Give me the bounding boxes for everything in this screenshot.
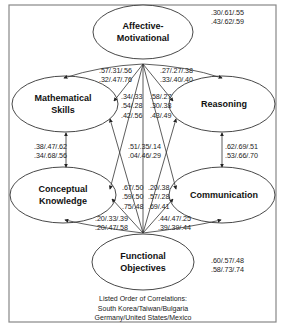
corr-line: .58/.27 [150,92,171,101]
corr-affective-functional: .51/.35/.14 .04/.46/.29 [128,142,161,161]
node-affective-line1: Affective- [117,20,170,32]
node-math-label: Mathematical Skills [34,92,91,116]
corr-line: .34/.33 [121,92,142,101]
corr-line: .57/.28 [148,192,169,201]
correlation-diagram: Affective- Motivational Mathematical Ski… [0,0,282,330]
corr-line: .44/.47/.25 [158,214,191,223]
legend-line2: Germany/United States/Mexico [95,313,192,323]
corr-reasoning-communication: .62/.69/.51 .53/.66/.70 [225,142,258,161]
corr-line: .54/.28 [121,101,142,110]
corr-line: .27/.27/.38 [160,66,193,75]
corr-line: .43/.62/.59 [211,17,244,26]
corr-affective-communication: .58/.27 .30/.38 .43/.49 [150,92,171,120]
node-math-line1: Mathematical [34,92,91,104]
corr-affective-math: .57/.31/.56 .32/.47/.76 [99,66,132,85]
node-functional-line1: Functional [120,250,166,262]
legend-title: Listed Order of Correlations: [95,294,192,304]
corr-affective-corner: .30/.61/.55 .43/.62/.59 [211,8,244,27]
corr-line: .59/.50 [122,192,143,201]
node-communication-line1: Communication [190,189,258,201]
corr-line: .69/.41 [148,202,169,211]
node-conceptual-label: Conceptual Knowledge [38,183,87,207]
corr-affective-reasoning: .27/.27/.38 .33/.40/.40 [160,66,193,85]
corr-line: .62/.69/.51 [225,142,258,151]
corr-line: .51/.35/.14 [128,142,161,151]
legend-line1: South Korea/Taiwan/Bulgaria [95,304,192,314]
corr-line: .33/.40/.40 [160,75,193,84]
corr-functional-communication: .44/.47/.25 .39/.39/.44 [158,214,191,233]
corr-line: .57/.31/.56 [99,66,132,75]
node-reasoning-line1: Reasoning [201,98,247,110]
corr-line: .75/.48 [122,202,143,211]
node-math-line2: Skills [34,104,91,116]
corr-line: .43/.49 [150,111,171,120]
corr-line: .42/.56 [121,111,142,120]
corr-line: .58/.73/.74 [211,265,244,274]
node-communication-label: Communication [190,189,258,201]
corr-line: .20/.47/.58 [95,223,128,232]
corr-line: .38/.47/.62 [34,142,67,151]
corr-line: .04/.46/.29 [128,151,161,160]
corr-line: .20/.38 [148,183,169,192]
corr-functional-reasoning: .20/.38 .57/.28 .69/.41 [148,183,169,211]
node-affective-line2: Motivational [117,32,170,44]
corr-line: .32/.47/.76 [99,75,132,84]
corr-line: .30/.38 [150,101,171,110]
node-functional-label: Functional Objectives [120,250,166,274]
node-conceptual-line1: Conceptual [38,183,87,195]
corr-functional-conceptual: .20/.33/.39 .20/.47/.58 [95,214,128,233]
corr-line: .20/.33/.39 [95,214,128,223]
corr-functional-corner: .60/.57/.48 .58/.73/.74 [211,256,244,275]
corr-line: .60/.57/.48 [211,256,244,265]
node-affective-label: Affective- Motivational [117,20,170,44]
legend: Listed Order of Correlations: South Kore… [95,294,192,323]
corr-line: .30/.61/.55 [211,8,244,17]
diagram-graphics [0,0,282,330]
node-reasoning-label: Reasoning [201,98,247,110]
corr-line: .39/.39/.44 [158,223,191,232]
corr-functional-math: .67/.50 .59/.50 .75/.48 [122,183,143,211]
corr-affective-conceptual: .34/.33 .54/.28 .42/.56 [121,92,142,120]
corr-math-conceptual: .38/.47/.62 .34/.68/.56 [34,142,67,161]
node-conceptual-line2: Knowledge [38,195,87,207]
corr-line: .67/.50 [122,183,143,192]
corr-line: .53/.66/.70 [225,151,258,160]
corr-line: .34/.68/.56 [34,151,67,160]
node-functional-line2: Objectives [120,262,166,274]
